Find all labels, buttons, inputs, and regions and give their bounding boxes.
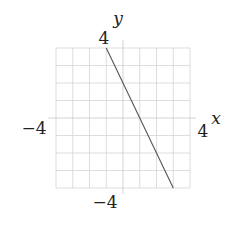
x-min-label: −4	[21, 118, 46, 138]
y-min-label: −4	[92, 192, 117, 212]
graph: 4 y −4 4 x −4	[0, 0, 235, 227]
y-max-label: 4	[99, 28, 110, 48]
x-axis-label: x	[211, 108, 221, 128]
y-axis-label: y	[112, 8, 123, 28]
x-max-label: 4	[198, 121, 209, 141]
